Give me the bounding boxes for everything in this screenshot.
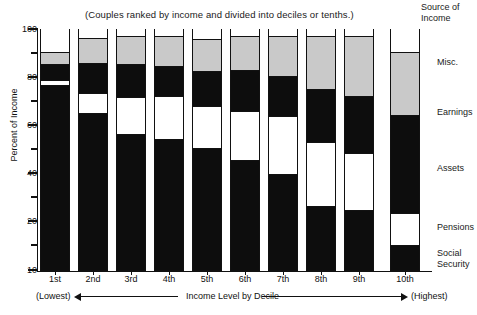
bar-segment[interactable] xyxy=(117,64,145,97)
bar-segment[interactable] xyxy=(307,142,335,206)
bar-segment[interactable] xyxy=(155,29,183,36)
stacked-bar[interactable] xyxy=(230,29,260,271)
legend-label-text: Misc. xyxy=(437,57,477,68)
bar-segment[interactable] xyxy=(391,213,419,245)
y-tick-label: 10 xyxy=(11,265,37,275)
bar-segment[interactable] xyxy=(193,106,221,148)
bar-segment[interactable] xyxy=(155,36,183,66)
bar-segment[interactable] xyxy=(307,206,335,270)
legend-label: Pensions xyxy=(437,222,477,233)
bar-segment[interactable] xyxy=(391,245,419,270)
bar-segment[interactable] xyxy=(117,29,145,36)
x-tick-label: 5th xyxy=(187,274,227,284)
y-axis-line xyxy=(37,28,38,271)
y-tick-label: 40 xyxy=(11,168,37,178)
legend-label: Assets xyxy=(437,163,477,174)
legend-label: Misc. xyxy=(437,57,477,68)
legend-heading-line1: Source of xyxy=(421,2,473,13)
x-axis-lowest-note: (Lowest) xyxy=(36,291,71,301)
y-tick-label: 60 xyxy=(11,120,37,130)
stacked-bar[interactable] xyxy=(268,29,298,271)
x-tick-label: 8th xyxy=(301,274,341,284)
right-arrow-line xyxy=(262,296,404,297)
stacked-bar[interactable] xyxy=(306,29,336,271)
y-tick-mark xyxy=(31,244,37,245)
x-tick-label: 3rd xyxy=(111,274,151,284)
bar-segment[interactable] xyxy=(231,36,259,70)
bar-segment[interactable] xyxy=(307,89,335,142)
x-tick-label: 7th xyxy=(263,274,303,284)
bar-segment[interactable] xyxy=(391,115,419,213)
bar-segment[interactable] xyxy=(345,210,373,270)
stacked-bar[interactable] xyxy=(192,29,222,271)
bar-segment[interactable] xyxy=(155,96,183,139)
x-tick-label: 10th xyxy=(385,274,425,284)
bar-segment[interactable] xyxy=(269,76,297,116)
bar-segment[interactable] xyxy=(231,160,259,270)
y-tick-mark xyxy=(31,196,37,197)
legend-label-text: Social xyxy=(437,248,477,259)
y-tick-mark xyxy=(31,52,37,53)
bar-segment[interactable] xyxy=(391,29,419,52)
bar-segment[interactable] xyxy=(231,111,259,160)
bar-segment[interactable] xyxy=(345,36,373,96)
bar-segment[interactable] xyxy=(79,63,107,93)
stacked-bar[interactable] xyxy=(344,29,374,271)
x-tick-label: 2nd xyxy=(73,274,113,284)
bar-segment[interactable] xyxy=(41,64,69,80)
x-tick-label: 4th xyxy=(149,274,189,284)
bar-segment[interactable] xyxy=(79,29,107,38)
bar-segment[interactable] xyxy=(117,134,145,270)
bar-segment[interactable] xyxy=(269,36,297,76)
left-arrow-line xyxy=(80,296,178,297)
bar-segment[interactable] xyxy=(391,52,419,115)
legend-label: Earnings xyxy=(437,107,477,118)
chart-subtitle: (Couples ranked by income and divided in… xyxy=(85,9,354,20)
bar-segment[interactable] xyxy=(117,36,145,64)
legend-heading-line2: Income xyxy=(421,13,473,24)
bar-segment[interactable] xyxy=(41,29,69,52)
bar-segment[interactable] xyxy=(193,39,221,71)
bar-segment[interactable] xyxy=(269,29,297,36)
bar-segment[interactable] xyxy=(155,66,183,96)
right-arrow-head xyxy=(401,293,408,301)
stacked-bar[interactable] xyxy=(154,29,184,271)
legend-label-text: Pensions xyxy=(437,222,477,233)
bar-segment[interactable] xyxy=(231,29,259,36)
bar-segment[interactable] xyxy=(41,52,69,64)
bar-segment[interactable] xyxy=(307,29,335,36)
bar-segment[interactable] xyxy=(193,71,221,106)
legend-heading: Source of Income xyxy=(421,2,473,24)
legend-label-text: Earnings xyxy=(437,107,477,118)
x-tick-label: 9th xyxy=(339,274,379,284)
bar-segment[interactable] xyxy=(269,116,297,174)
stacked-bar[interactable] xyxy=(390,29,420,271)
bar-segment[interactable] xyxy=(345,153,373,210)
legend-label-text-line2: Security xyxy=(437,259,477,270)
bar-segment[interactable] xyxy=(307,36,335,89)
legend-label-text: Assets xyxy=(437,163,477,174)
bar-segment[interactable] xyxy=(117,97,145,134)
x-tick-label: 6th xyxy=(225,274,265,284)
stacked-bar[interactable] xyxy=(116,29,146,271)
legend-label: SocialSecurity xyxy=(437,248,477,269)
stacked-bar[interactable] xyxy=(78,29,108,271)
y-tick-label: 100 xyxy=(11,24,37,34)
bar-segment[interactable] xyxy=(345,96,373,153)
bar-segment[interactable] xyxy=(41,85,69,270)
bar-segment[interactable] xyxy=(79,38,107,63)
bar-segment[interactable] xyxy=(269,174,297,270)
x-axis-highest-note: (Highest) xyxy=(411,291,448,301)
bar-segment[interactable] xyxy=(79,93,107,113)
stacked-bar[interactable] xyxy=(40,29,70,271)
bar-segment[interactable] xyxy=(231,70,259,111)
bar-segment[interactable] xyxy=(193,148,221,270)
bar-segment[interactable] xyxy=(345,29,373,36)
y-tick-label: 20 xyxy=(11,216,37,226)
bar-segment[interactable] xyxy=(79,113,107,270)
left-arrow-head xyxy=(74,293,81,301)
bar-segment[interactable] xyxy=(155,139,183,270)
y-tick-mark xyxy=(31,148,37,149)
bar-segment[interactable] xyxy=(193,29,221,39)
